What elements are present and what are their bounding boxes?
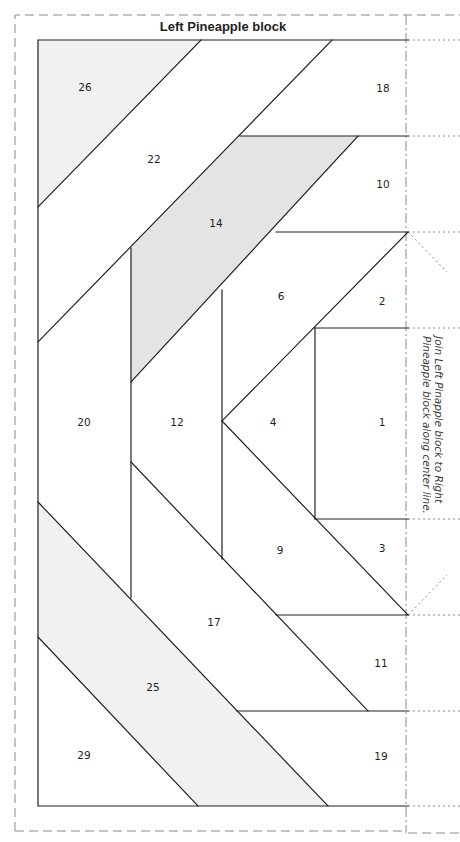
piece-label-9: 9 [277, 544, 284, 556]
piece-label-20: 20 [77, 416, 90, 428]
join-instruction-line-2: Pineapple block along center line. [421, 336, 433, 514]
piece-label-19: 19 [374, 750, 387, 762]
piece-label-29: 29 [77, 749, 90, 761]
piece-label-25: 25 [146, 681, 159, 693]
piece-label-1: 1 [379, 416, 386, 428]
piece-label-6: 6 [278, 290, 285, 302]
piece-label-26: 26 [78, 81, 91, 93]
piece-label-4: 4 [270, 416, 277, 428]
piece-label-3: 3 [379, 542, 386, 554]
piece-label-22: 22 [147, 153, 160, 165]
pineapple-block-diagram [0, 0, 460, 842]
piece-label-17: 17 [207, 616, 220, 628]
block-title: Left Pineapple block [38, 19, 408, 34]
piece-label-2: 2 [379, 295, 386, 307]
piece-label-14: 14 [209, 217, 222, 229]
piece-label-12: 12 [170, 416, 183, 428]
piece-label-10: 10 [376, 178, 389, 190]
piece-label-18: 18 [376, 82, 389, 94]
join-instruction-note: Join Left Pinapple block to Right Pineap… [421, 336, 445, 514]
join-instruction-line-1: Join Left Pinapple block to Right [433, 336, 445, 514]
piece-label-11: 11 [374, 657, 387, 669]
